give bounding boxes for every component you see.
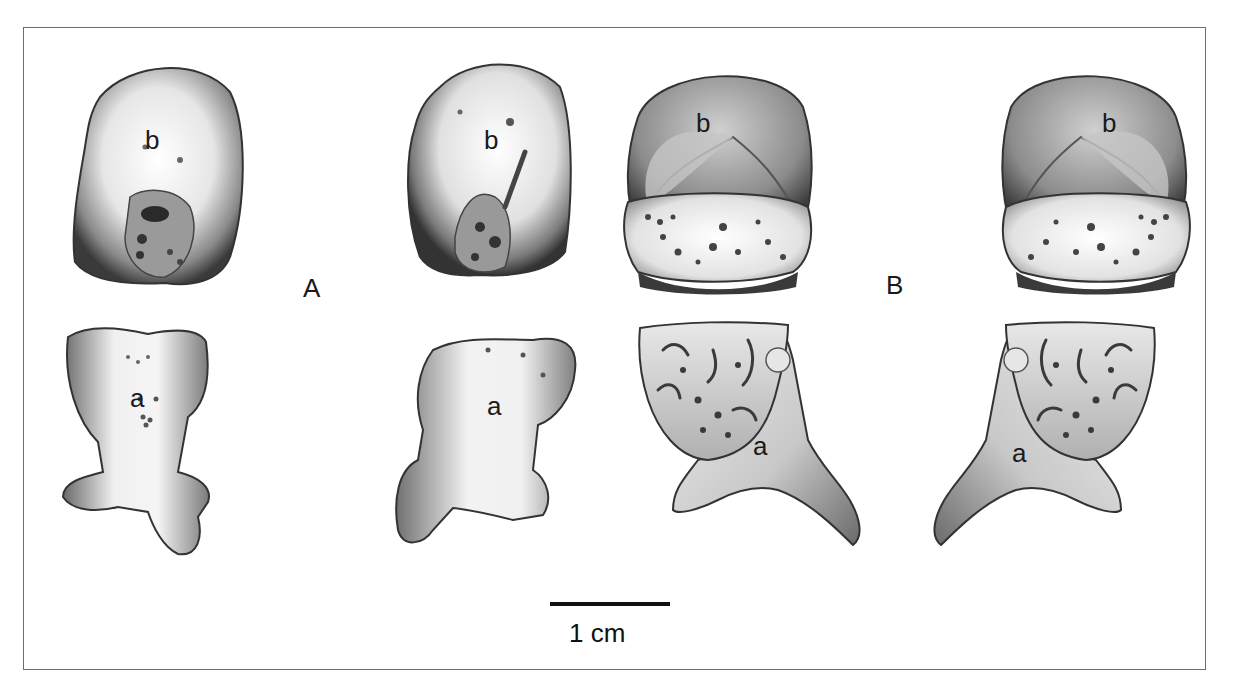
specimen-b-upper-left [618,57,818,297]
specimen-label: b [696,110,710,136]
specimen-b-lower-left [638,320,866,552]
specimen-label: a [487,393,501,419]
scale-bar-label: 1 cm [569,620,625,646]
specimen-label: b [484,127,498,153]
specimen-b-upper-right [996,57,1196,297]
specimen-label: a [130,385,144,411]
bone-illustration [70,57,246,289]
bone-illustration [393,330,583,550]
scale-bar [550,602,670,606]
group-label-a: A [303,275,320,301]
specimen-a-lower-left [58,322,213,560]
bone-illustration [928,320,1156,552]
specimen-a-upper-left [70,57,246,289]
bone-illustration [400,57,575,279]
group-label-b: B [886,272,903,298]
bone-illustration [58,322,213,560]
specimen-a-lower-right [393,330,583,550]
bone-illustration [618,57,818,297]
bone-illustration [996,57,1196,297]
specimen-label: b [1102,110,1116,136]
specimen-b-lower-right [928,320,1156,552]
bone-illustration [638,320,866,552]
specimen-label: b [145,127,159,153]
specimen-label: a [753,433,767,459]
specimen-a-upper-right [400,57,575,279]
specimen-label: a [1012,440,1026,466]
